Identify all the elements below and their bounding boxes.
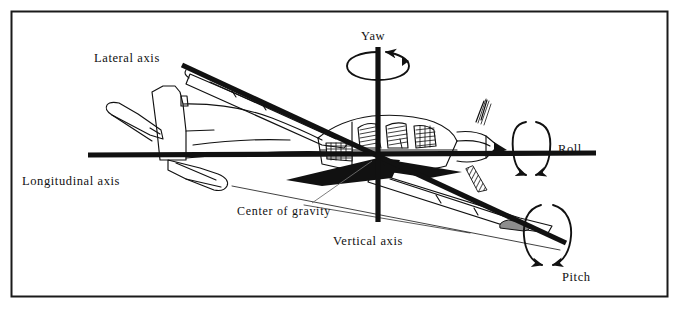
label-lateral-axis: Lateral axis [94, 51, 160, 65]
diagram-canvas: Lateral axis Longitudinal axis Vertical … [0, 0, 678, 314]
longitudinal-axis-line [88, 153, 596, 155]
label-longitudinal-axis: Longitudinal axis [22, 174, 120, 188]
cockpit-interior [358, 123, 436, 148]
figure-aircraft-axes: Lateral axis Longitudinal axis Vertical … [0, 0, 678, 314]
label-pitch: Pitch [562, 270, 591, 284]
label-vertical-axis: Vertical axis [333, 234, 403, 248]
label-yaw: Yaw [361, 29, 385, 43]
label-center-of-gravity: Center of gravity [237, 204, 331, 218]
label-roll: Roll [558, 142, 582, 156]
